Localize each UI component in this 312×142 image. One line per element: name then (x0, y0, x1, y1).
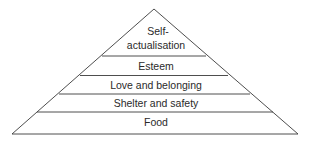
level-love-and-belonging: Love and belonging (0, 79, 312, 91)
level-self-actualisation-line1: Self- (2, 25, 312, 37)
level-esteem: Esteem (0, 60, 312, 72)
level-food: Food (0, 116, 312, 128)
level-shelter-and-safety: Shelter and safety (0, 97, 312, 109)
level-self-actualisation-line2: actualisation (0, 39, 312, 51)
